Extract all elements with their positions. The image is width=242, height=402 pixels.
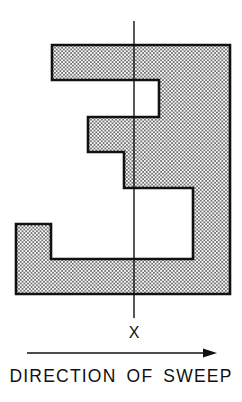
sweep-line-label: X — [129, 324, 140, 341]
arrow-head-icon — [203, 349, 217, 358]
direction-arrow — [27, 349, 217, 358]
sweep-direction-caption: DIRECTION OF SWEEP — [0, 366, 242, 387]
sweep-diagram: X — [0, 0, 242, 402]
stippled-polygon — [16, 45, 230, 294]
